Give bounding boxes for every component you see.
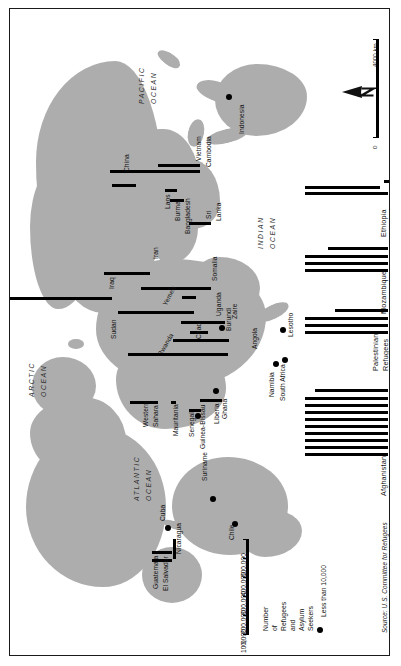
country-label-south-africa: South Africa [280,364,287,401]
country-label-liberia: Liberia [214,404,221,425]
country-label-burma: Burma [175,201,182,221]
landmass-north-america-arctic [30,397,126,477]
country-label-western: Western [143,402,150,427]
country-label-nicaragua: Nicaragua [176,523,183,554]
country-label-chile: Chile [229,524,236,540]
country-label-chad: Chad [196,323,203,339]
country-label-guinea-bissau: Guinea-Bissau [200,404,207,449]
dot-south-africa [282,357,288,363]
legend-value-0: 0 [241,640,248,644]
country-label-mozambique: Mozambique [380,271,387,314]
bar-iran [104,272,150,275]
country-label-uganda: Uganda [216,292,223,316]
country-label-lanka: Lanka [216,203,223,221]
bar-yemen [182,296,196,299]
bar-angola [128,353,228,356]
dot-suriname [210,496,216,502]
bar-china [112,184,136,187]
scale-label-max: 4000 km. [372,42,378,67]
legend-dot-label: Less than 10,000 [321,565,328,617]
landmass-central-america [142,547,202,603]
country-label-senegal: Senegal [189,412,196,437]
legend-tick-500000 [243,539,248,540]
legend-title-line1: Number [263,607,270,631]
legend-title-line2: of [272,625,279,631]
legend-dot-marker [317,627,323,633]
dot-indonesia [226,94,232,100]
country-label-palestinian: Palestinian [372,334,379,371]
bar-guatemala [152,551,172,554]
country-label-sri: Sri [206,211,213,219]
country-label-bangladesh: Bangladesh [185,198,192,234]
country-label-angola: Angola [252,328,259,349]
north-arrow-icon [340,81,382,103]
legend-title-line5: Asylum [299,609,306,631]
bar-zaire [173,339,229,342]
dot-ghana [213,388,219,394]
map-frame: PACIFIC OCEAN INDIAN OCEAN ARCTIC OCEAN … [9,8,390,656]
ocean-label-indian-line2: OCEAN [270,217,277,249]
bar-vietnam [158,164,200,167]
country-label-zaire: Zaire [232,303,239,319]
landmass-iceland [68,339,84,349]
country-label-vietnam: Vietnam [196,136,203,161]
legend-title-line6: Seekers [308,606,315,631]
scale-tick-top [373,39,379,40]
ocean-label-indian-line1: INDIAN [258,216,265,249]
ocean-label-arctic-line2: OCEAN [41,365,48,397]
country-label-iraq: Iraq [109,277,116,289]
country-label-iran: Iran [153,247,160,259]
bar-sudan [118,311,194,314]
country-label-ethiopia: Ethiopia [380,209,387,237]
scale-label-zero: 0 [372,146,378,149]
country-label-cuba: Cuba [160,505,167,521]
ocean-label-pacific-line2: OCEAN [151,72,158,104]
ocean-label-atlantic-line1: ATLANTIC [134,456,141,501]
country-label-namibia: Namibia [269,372,276,397]
dot-lesotho [280,327,286,333]
ocean-label-pacific-line1: PACIFIC [139,66,146,104]
source-note: Source: U.S. Committee for Refugees [382,522,388,633]
ocean-label-arctic-line1: ARCTIC [29,362,36,397]
country-label-china: China [124,154,131,172]
dot-cuba [165,525,171,531]
country-label-ghana: Ghana [222,399,229,419]
country-label-suriname: Suriname [202,452,209,481]
country-label-el-salvador: El Salvador [163,556,170,591]
country-label-cambodia: Cambodia [206,136,213,167]
landmass-japan [155,46,183,71]
bar-liberia [200,399,222,402]
country-label-palestinian-refugees: Refugees [382,339,389,371]
bar-iraq [10,297,112,300]
legend-title-line3: Refugees [281,602,288,631]
bar-uganda [181,321,225,324]
country-label-indonesia: Indonesia [239,105,246,135]
country-label-mauritania: Mauritania [173,404,180,436]
bar-laos [165,189,177,192]
scale-tick-bottom [373,137,379,138]
map-page: PACIFIC OCEAN INDIAN OCEAN ARCTIC OCEAN … [0,0,401,666]
landmass-south-america-south [240,509,302,557]
country-label-lesotho: Lesotho [288,313,295,337]
country-label-somalia: Somalia [212,256,219,281]
ocean-label-atlantic-line2: OCEAN [146,469,153,501]
country-label-sahara: Sahara [153,405,160,427]
bar-sri-lanka [189,222,211,225]
country-label-sudan: Sudan [111,319,118,339]
country-label-afghanistan: Afghanistan [380,456,387,496]
legend-title-line4: and [290,620,297,631]
